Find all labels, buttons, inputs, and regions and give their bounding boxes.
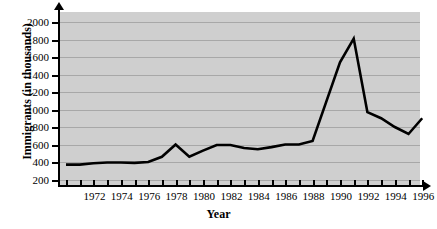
- immigrants-line-chart: 200018001600140012001000800600400200 197…: [0, 0, 437, 229]
- data-series-layer: [0, 0, 437, 229]
- x-axis-title: Year: [0, 207, 437, 222]
- series-line-immigrants: [66, 39, 422, 165]
- y-axis-title: Immigrants (in thousands): [20, 7, 35, 177]
